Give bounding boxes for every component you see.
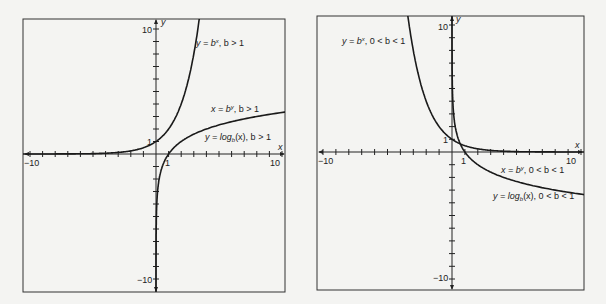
right-exp-label: y = bx, 0 < b < 1	[341, 36, 405, 46]
left-x-axis-label: x	[277, 142, 283, 152]
right-x-arrow-left-icon	[318, 150, 323, 154]
right-y-tick-neg10: −10	[433, 273, 448, 283]
right-panel: y x −10 10 1 10 1 −10 y = bx, 0 < b < 1 …	[317, 0, 593, 290]
right-x-tick-1: 1	[461, 156, 466, 166]
right-log-label: y = logb(x), 0 < b < 1	[492, 191, 574, 202]
left-x-tick-10: 10	[270, 158, 280, 168]
chart-canvas: y x −10 10 1 10 1 −10 y = bx, b > 1 x = …	[0, 0, 606, 304]
left-inv-label: x = by, b > 1	[210, 104, 259, 114]
left-x-tick-neg10: −10	[24, 158, 39, 168]
left-frame	[23, 19, 285, 292]
right-y-axis-label: y	[455, 14, 461, 24]
right-x-tick-10: 10	[566, 156, 576, 166]
left-exp-curve	[17, 8, 200, 154]
left-y-tick-10: 10	[142, 25, 152, 35]
right-exp-curve	[406, 3, 593, 152]
left-exp-label: y = bx, b > 1	[195, 38, 244, 48]
left-log-label: y = logb(x), b > 1	[204, 132, 271, 143]
left-y-tick-neg10: −10	[137, 275, 152, 285]
left-panel: y x −10 10 1 10 1 −10 y = bx, b > 1 x = …	[17, 8, 289, 304]
right-y-arrow-down-icon	[450, 285, 454, 290]
right-frame	[317, 16, 584, 290]
right-inv-label: x = by, 0 < b < 1	[500, 165, 564, 175]
left-y-arrow-up-icon	[154, 19, 158, 24]
right-x-tick-neg10: −10	[318, 156, 333, 166]
right-y-tick-10: 10	[438, 22, 448, 32]
right-x-axis-label: x	[574, 140, 580, 150]
left-y-axis-label: y	[160, 17, 166, 27]
